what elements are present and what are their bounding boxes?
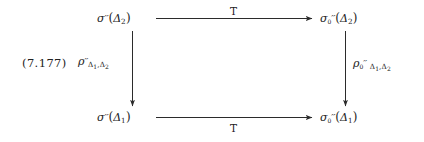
node-bottom-left: σ′′(Δ1) xyxy=(97,111,131,125)
node-bottom-right-arg: Δ xyxy=(340,111,348,124)
left-arrow-label-delta-b-index: 2 xyxy=(105,63,109,70)
node-top-left: σ′′(Δ2) xyxy=(97,12,131,26)
node-top-right-symbol: σ xyxy=(320,12,328,25)
node-top-right: σ0′′(Δ2) xyxy=(320,12,357,26)
node-top-left-paren-close: ) xyxy=(126,11,131,25)
node-bottom-right-symbol: σ xyxy=(320,111,328,124)
right-arrow-label-primes: ′′ xyxy=(363,59,367,69)
top-arrow-label: T xyxy=(230,5,237,17)
right-arrow-label-delta-b-index: 2 xyxy=(387,65,391,72)
node-bottom-left-arg: Δ xyxy=(113,111,121,124)
node-bottom-left-symbol: σ xyxy=(97,111,105,124)
node-top-right-arg: Δ xyxy=(340,12,348,25)
node-bottom-right: σ0′′(Δ1) xyxy=(320,111,357,125)
left-arrow-label: ρ′′Δ1,Δ2 xyxy=(78,56,109,70)
node-bottom-right-paren-close: ) xyxy=(353,110,358,124)
node-top-left-symbol: σ xyxy=(97,12,105,25)
node-top-left-arg: Δ xyxy=(113,12,121,25)
diagram-canvas: (7.177) σ′′(Δ2) σ0′′(Δ2) σ′′(Δ1) σ0′′(Δ1… xyxy=(0,0,424,142)
node-top-right-paren-close: ) xyxy=(353,11,358,25)
equation-number: (7.177) xyxy=(22,56,67,70)
right-arrow-label: ρ0′′Δ1,Δ2 xyxy=(353,58,391,72)
bottom-arrow-label: T xyxy=(230,122,237,134)
node-bottom-left-paren-close: ) xyxy=(126,110,131,124)
